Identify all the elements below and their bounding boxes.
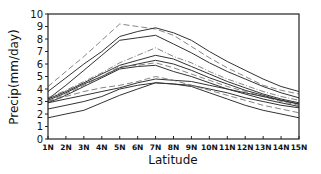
series-line-dashdot-1 [48, 48, 299, 101]
x-tick-label: 15N [291, 143, 308, 152]
line-chart: 012345678910 1N2N3N4N5N6N7N8N9N10N11N12N… [0, 0, 321, 174]
x-tick-label: 3N [78, 143, 90, 152]
x-axis-label: Latitude [148, 153, 197, 167]
y-tick-label: 4 [37, 84, 43, 95]
y-tick-label: 2 [37, 109, 43, 120]
x-tick-label: 13N [255, 143, 272, 152]
y-tick-label: 6 [37, 59, 43, 70]
y-tick-label: 9 [37, 21, 43, 32]
x-tick-label: 10N [201, 143, 218, 152]
y-tick-label: 1 [37, 121, 43, 132]
y-tick-label: 7 [37, 46, 43, 57]
x-tick-label: 14N [273, 143, 290, 152]
x-tick-label: 12N [237, 143, 254, 152]
x-tick-label: 4N [96, 143, 108, 152]
x-tick-label: 8N [168, 143, 180, 152]
x-tick-label: 7N [150, 143, 162, 152]
y-tick-label: 8 [37, 34, 43, 45]
x-tick-label: 6N [132, 143, 144, 152]
x-tick-label: 11N [219, 143, 236, 152]
x-tick-label: 9N [186, 143, 198, 152]
series-lines [48, 24, 299, 118]
y-tick-label: 3 [37, 96, 43, 107]
y-tick-label: 10 [30, 9, 43, 20]
y-axis-label: Precip(mm/day) [7, 29, 21, 124]
x-tick-label: 5N [114, 143, 126, 152]
x-axis-ticks: 1N2N3N4N5N6N7N8N9N10N11N12N13N14N15N [42, 136, 307, 152]
x-tick-label: 2N [60, 143, 72, 152]
y-axis-ticks: 012345678910 [30, 9, 48, 145]
x-tick-label: 1N [42, 143, 54, 152]
series-line-solid-high-2 [48, 35, 299, 99]
y-tick-label: 5 [37, 71, 43, 82]
series-line-solid-lowest [48, 83, 299, 118]
